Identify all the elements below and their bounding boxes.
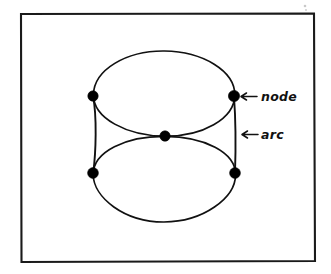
node-annotation-label: node <box>261 89 297 104</box>
right-connecting-arc <box>234 97 235 174</box>
paper-speck <box>304 5 307 8</box>
figure-page: node arc <box>0 0 331 274</box>
node-bottom-right <box>230 168 241 179</box>
node-bottom-left <box>88 168 99 179</box>
node-annotation: node <box>241 89 297 104</box>
node-top-left <box>88 91 98 101</box>
node-center <box>160 131 170 141</box>
left-arrow-icon <box>241 93 257 100</box>
arc-annotation: arc <box>242 127 284 142</box>
node-group <box>88 90 241 178</box>
node-top-right <box>228 90 239 101</box>
upper-ellipse-curve <box>93 51 234 136</box>
left-connecting-arc <box>93 96 96 173</box>
graph-diagram-figure: node arc <box>0 0 331 274</box>
paper-speck <box>305 9 307 11</box>
left-arrow-icon <box>242 131 258 138</box>
lower-ellipse-curve <box>93 136 235 222</box>
arc-annotation-label: arc <box>261 127 284 142</box>
